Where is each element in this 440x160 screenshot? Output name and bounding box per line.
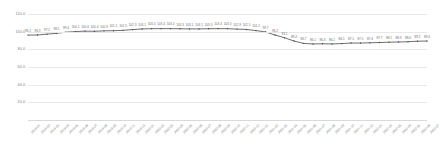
gridline xyxy=(28,85,427,86)
data-point-label: 103.4 xyxy=(167,22,175,26)
data-point-label: 86.7 xyxy=(300,37,306,41)
gridline xyxy=(28,67,427,68)
data-point xyxy=(350,42,351,43)
data-point-label: 103.4 xyxy=(214,22,222,26)
data-point-label: 87.1 xyxy=(348,37,354,41)
data-point-label: 86.1 xyxy=(310,38,316,42)
data-point xyxy=(312,43,313,44)
data-point-label: 93.1 xyxy=(281,32,287,36)
data-point-label: 103.1 xyxy=(195,23,203,27)
data-point-label: 100.9 xyxy=(100,25,108,29)
data-point xyxy=(341,43,342,44)
data-point-label: 89.2 xyxy=(414,35,420,39)
data-point xyxy=(426,40,427,41)
data-point xyxy=(293,40,294,41)
y-axis-tick-label: 120.0 xyxy=(16,12,26,16)
data-point-label: 103.1 xyxy=(138,23,146,27)
data-point-label: 100.4 xyxy=(91,25,99,29)
x-axis-tick-label: 2019-01 xyxy=(30,123,41,134)
data-point xyxy=(236,28,237,29)
gridline xyxy=(28,14,427,15)
data-point-label: 87.1 xyxy=(357,37,363,41)
data-point-label: 99.7 xyxy=(262,26,268,30)
data-point-label: 101.1 xyxy=(110,24,118,28)
data-point xyxy=(322,43,323,44)
data-point xyxy=(160,28,161,29)
gridline xyxy=(28,32,427,33)
data-point-label: 88.3 xyxy=(395,36,401,40)
data-point-label: 101.5 xyxy=(119,24,127,28)
data-point-label: 102.5 xyxy=(243,23,251,27)
data-point xyxy=(274,34,275,35)
data-point xyxy=(46,33,47,34)
y-axis-tick-label: 40.0 xyxy=(18,83,25,87)
x-axis-tick-label: 2021-12 xyxy=(363,123,374,134)
data-point xyxy=(284,37,285,38)
data-point-label: 100.1 xyxy=(72,25,80,29)
data-point xyxy=(369,42,370,43)
data-point-label: 103.4 xyxy=(224,22,232,26)
data-point-label: 98.1 xyxy=(53,27,59,31)
data-point xyxy=(132,29,133,30)
data-point xyxy=(208,28,209,29)
x-axis-labels: 2019-012019-022019-032019-042019-052019-… xyxy=(28,122,427,160)
data-point-label: 96.1 xyxy=(25,29,31,33)
x-axis-tick-label: 2020-12 xyxy=(249,123,260,134)
data-point xyxy=(141,28,142,29)
data-point-label: 86.1 xyxy=(329,38,335,42)
data-point-label: 86.5 xyxy=(338,37,344,41)
data-point-label: 101.2 xyxy=(252,24,260,28)
data-point xyxy=(151,28,152,29)
data-point xyxy=(189,28,190,29)
data-point xyxy=(198,28,199,29)
data-point-label: 103.1 xyxy=(186,23,194,27)
data-point xyxy=(379,42,380,43)
data-point xyxy=(407,41,408,42)
x-axis-line xyxy=(28,120,427,121)
gridline xyxy=(28,49,427,50)
data-point xyxy=(217,28,218,29)
data-point xyxy=(360,42,361,43)
data-point xyxy=(56,33,57,34)
data-point-label: 103.3 xyxy=(176,23,184,27)
data-point-label: 88.1 xyxy=(386,36,392,40)
data-point xyxy=(179,28,180,29)
data-point xyxy=(227,28,228,29)
y-axis-tick-label: 60.0 xyxy=(18,65,25,69)
data-point xyxy=(27,34,28,35)
data-point-label: 103.4 xyxy=(148,22,156,26)
y-axis-tick-label: 100.0 xyxy=(16,30,26,34)
data-point-label: 103.3 xyxy=(205,23,213,27)
data-point-label: 88.6 xyxy=(405,36,411,40)
data-point xyxy=(246,29,247,30)
data-point-label: 102.9 xyxy=(233,23,241,27)
data-point-label: 100.6 xyxy=(81,25,89,29)
x-axis-tick-label: 2019-12 xyxy=(135,123,146,134)
data-point xyxy=(303,43,304,44)
y-axis-tick-label: 80.0 xyxy=(18,47,25,51)
plot-area: 96.196.397.298.199.4100.1100.6100.4100.9… xyxy=(28,14,427,120)
data-point-label: 96.2 xyxy=(272,29,278,33)
y-axis: 120.0100.080.060.040.020.0 xyxy=(0,14,25,120)
data-point xyxy=(417,41,418,42)
data-point xyxy=(331,43,332,44)
data-point xyxy=(170,28,171,29)
data-point-label: 89.4 xyxy=(291,35,297,39)
data-point-label: 99.4 xyxy=(63,26,69,30)
data-point xyxy=(37,34,38,35)
data-point-label: 89.4 xyxy=(424,35,430,39)
gridline xyxy=(28,102,427,103)
data-point-label: 87.7 xyxy=(376,36,382,40)
data-point-label: 97.2 xyxy=(44,28,50,32)
data-point-label: 87.4 xyxy=(367,37,373,41)
data-point xyxy=(388,41,389,42)
data-point-label: 103.4 xyxy=(157,22,165,26)
y-axis-tick-label: 20.0 xyxy=(18,100,25,104)
data-point-label: 86.3 xyxy=(319,38,325,42)
data-point xyxy=(398,41,399,42)
data-point-label: 96.3 xyxy=(34,29,40,33)
data-point-label: 102.3 xyxy=(129,23,137,27)
